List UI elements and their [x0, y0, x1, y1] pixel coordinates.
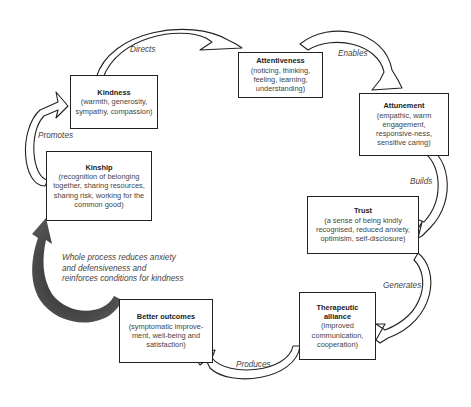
node-desc: (a sense of being kindly recognised, red… [311, 216, 415, 244]
note-line: and defensiveness and [62, 264, 184, 275]
arrow-directs [96, 29, 242, 78]
node-title: Trust [354, 206, 372, 215]
edge-label-enables: Enables [338, 49, 368, 58]
node-desc: (symptomatic improve-ment, well-being an… [123, 322, 209, 350]
node-title: Therapeutic alliance [303, 303, 372, 322]
node-title: Kinship [85, 163, 112, 172]
arrow-generates [376, 253, 431, 343]
edge-label-generates: Generates [383, 281, 421, 290]
node-kinship: Kinship (recognition of belonging togeth… [46, 151, 152, 221]
node-better-outcomes: Better outcomes (symptomatic improve-men… [119, 299, 213, 363]
node-attentiveness: Attentiveness (noticing, thinking, feeli… [238, 52, 323, 98]
node-title: Better outcomes [137, 312, 195, 321]
edge-label-builds: Builds [410, 177, 432, 186]
note-line: reinforces conditions for kindness [62, 274, 184, 285]
node-desc: (recognition of belonging together, shar… [50, 172, 148, 209]
edge-label-produces: Produces [236, 360, 271, 369]
node-attunement: Attunement (empathic, warm engagement, r… [359, 93, 449, 156]
edge-label-promotes: Promotes [38, 131, 73, 140]
node-kindness: Kindness (warmth, generosity, sympathy, … [70, 75, 158, 129]
node-title: Attunement [383, 101, 424, 110]
node-therapeutic-alliance: Therapeutic alliance (improved communica… [299, 292, 376, 360]
node-title: Kindness [97, 88, 130, 97]
feedback-note: Whole process reduces anxiety and defens… [62, 253, 184, 285]
node-desc: (warmth, generosity, sympathy, compassio… [74, 97, 154, 116]
node-desc: (empathic, warm engagement, responsive-n… [363, 111, 445, 148]
edge-label-directs: Directs [130, 45, 155, 54]
node-desc: (noticing, thinking, feeling, learning, … [242, 66, 319, 94]
note-line: Whole process reduces anxiety [62, 253, 184, 264]
node-desc: (improved communication, cooperation) [303, 321, 372, 349]
node-title: Attentiveness [256, 56, 304, 65]
node-trust: Trust (a sense of being kindly recognise… [307, 196, 419, 254]
